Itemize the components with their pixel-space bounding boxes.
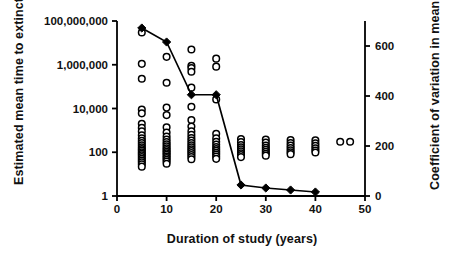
scatter-point bbox=[213, 156, 220, 163]
scatter-point bbox=[139, 75, 146, 82]
scatter-point bbox=[287, 151, 294, 158]
scatter-point bbox=[163, 79, 170, 86]
scatter-point bbox=[163, 104, 170, 111]
cv-marker bbox=[262, 184, 270, 192]
scatter-point bbox=[139, 61, 146, 68]
scatter-point bbox=[139, 110, 146, 117]
scatter-point bbox=[188, 103, 195, 110]
scatter-point bbox=[163, 54, 170, 61]
figure: Estimated mean time to extinction (o) Co… bbox=[0, 0, 472, 264]
cv-marker bbox=[237, 181, 245, 189]
cv-marker bbox=[163, 38, 171, 46]
plot-canvas bbox=[0, 0, 472, 264]
axes bbox=[112, 21, 370, 201]
scatter-point bbox=[163, 160, 170, 167]
scatter-point bbox=[163, 112, 170, 119]
scatter-point bbox=[139, 163, 146, 170]
scatter-point bbox=[188, 117, 195, 124]
scatter-point bbox=[213, 55, 220, 62]
scatter-point bbox=[238, 154, 245, 161]
cv-marker bbox=[187, 91, 195, 99]
cv-marker bbox=[287, 186, 295, 194]
cv-marker bbox=[311, 188, 319, 196]
scatter-point bbox=[188, 46, 195, 53]
scatter-point bbox=[312, 149, 319, 156]
scatter-point bbox=[188, 156, 195, 163]
scatter-point bbox=[347, 139, 354, 146]
scatter-point bbox=[337, 139, 344, 146]
scatter-point bbox=[263, 152, 270, 159]
scatter-point bbox=[213, 63, 220, 70]
scatter-point bbox=[188, 68, 195, 75]
